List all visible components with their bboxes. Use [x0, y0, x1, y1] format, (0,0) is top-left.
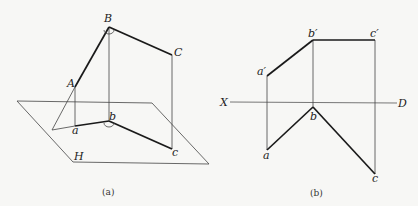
line-bc-projection	[109, 121, 172, 149]
label-a-top: a	[263, 149, 270, 162]
label-D: D	[397, 97, 407, 110]
figure-b: b′ c′ a′ X D b a c (b)	[219, 27, 407, 198]
diagram-canvas: B C A a b c H (a) b′ c′ a′	[0, 0, 418, 206]
line-a-b	[267, 107, 313, 150]
label-c: c	[172, 146, 178, 159]
angle-arc-b-lower	[104, 123, 114, 127]
label-a-prime: a′	[257, 65, 267, 78]
caption-b: (b)	[310, 188, 323, 198]
label-A: A	[66, 77, 75, 90]
projection-diagram: B C A a b c H (a) b′ c′ a′	[0, 0, 418, 206]
label-a: a	[72, 124, 79, 137]
label-C: C	[174, 46, 183, 59]
label-c-top: c	[372, 172, 378, 185]
label-b: b	[109, 110, 116, 123]
line-b-c	[313, 107, 375, 174]
label-B: B	[103, 12, 112, 25]
line-a-prime-b-prime	[267, 40, 313, 76]
label-X: X	[219, 96, 229, 109]
figure-a: B C A a b c H (a)	[17, 12, 209, 197]
label-c-prime: c′	[370, 27, 379, 40]
label-b-prime: b′	[308, 27, 318, 40]
x-axis	[230, 102, 397, 103]
label-H: H	[73, 150, 84, 163]
line-bc	[109, 27, 172, 55]
line-ab-extended	[75, 27, 109, 87]
label-b-top: b	[310, 110, 317, 123]
caption-a: (a)	[102, 187, 114, 197]
